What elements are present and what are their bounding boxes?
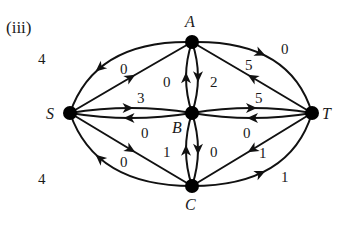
edge-label: 0 xyxy=(163,74,171,90)
nodes: SABCT xyxy=(46,13,332,213)
edge-label: 0 xyxy=(281,41,289,57)
arrowhead-icon xyxy=(245,142,260,156)
node-b xyxy=(185,106,199,120)
edge-label: 4 xyxy=(38,51,46,67)
edge-label: 1 xyxy=(163,144,171,160)
edge-label: 0 xyxy=(210,144,218,160)
node-label-b: B xyxy=(172,119,182,136)
node-label-c: C xyxy=(185,196,196,213)
edge-label: 5 xyxy=(255,90,263,106)
arrowhead-icon xyxy=(253,47,267,61)
edge-label: 5 xyxy=(245,57,253,73)
node-c xyxy=(185,179,199,193)
edge-label: 1 xyxy=(259,145,267,161)
edge-label: 2 xyxy=(210,74,218,90)
flow-network-diagram: (iii) SABCT 4030040210055011 xyxy=(0,0,359,225)
edge-label: 4 xyxy=(38,171,46,187)
node-label-a: A xyxy=(184,13,195,30)
node-t xyxy=(305,106,319,120)
node-label-t: T xyxy=(322,105,332,122)
edge-label: 0 xyxy=(120,154,128,170)
figure-title: (iii) xyxy=(6,18,32,37)
node-s xyxy=(63,106,77,120)
edge-label: 0 xyxy=(141,125,149,141)
arrowhead-icon xyxy=(253,166,267,180)
edge-label: 1 xyxy=(281,169,289,185)
edge-label: 0 xyxy=(120,61,128,77)
edge-label: 0 xyxy=(243,125,251,141)
edge-label: 3 xyxy=(137,90,145,106)
node-label-s: S xyxy=(46,105,54,122)
node-a xyxy=(185,35,199,49)
